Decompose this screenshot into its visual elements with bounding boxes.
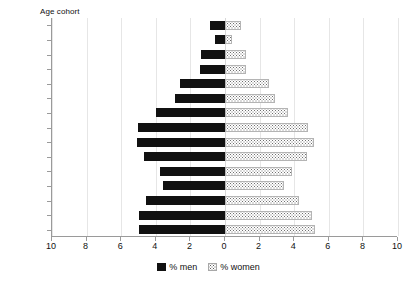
chart-legend: % men % women	[0, 262, 417, 272]
x-tick-label: 6	[118, 241, 123, 251]
bar-women-15	[225, 181, 284, 190]
legend-label-men: % men	[169, 262, 197, 272]
bar-men-65	[215, 35, 225, 44]
bar-women-20	[225, 167, 292, 176]
x-tick-mark	[51, 237, 52, 241]
gridline	[52, 18, 53, 236]
bar-men-10	[146, 196, 225, 205]
legend-swatch-women-icon	[208, 263, 217, 271]
bar-men-35	[138, 123, 225, 132]
chart-title: Age cohort	[40, 7, 80, 16]
legend-item-men[interactable]: % men	[157, 262, 197, 272]
bar-women-70	[225, 21, 241, 30]
bar-men-15	[163, 181, 225, 190]
legend-item-women[interactable]: % women	[208, 262, 260, 272]
bar-men-55	[200, 65, 225, 74]
x-tick-label: 8	[360, 241, 365, 251]
x-tick-mark	[328, 237, 329, 241]
gridline	[87, 18, 88, 236]
x-tick-label: 10	[392, 241, 402, 251]
population-pyramid-chart: Age cohort 7065605550454035302520151050 …	[0, 0, 417, 286]
bar-women-10	[225, 196, 299, 205]
bar-women-35	[225, 123, 308, 132]
x-tick-label: 0	[221, 241, 226, 251]
bar-women-30	[225, 138, 314, 147]
bar-women-50	[225, 79, 269, 88]
bar-women-55	[225, 65, 246, 74]
x-tick-mark	[86, 237, 87, 241]
bar-men-0	[139, 225, 225, 234]
bar-women-25	[225, 152, 307, 161]
bar-women-60	[225, 50, 246, 59]
gridline	[329, 18, 330, 236]
x-tick-mark	[397, 237, 398, 241]
bar-men-40	[156, 108, 225, 117]
plot-area	[51, 18, 397, 237]
bar-women-5	[225, 211, 312, 220]
x-tick-mark	[259, 237, 260, 241]
bar-men-50	[180, 79, 225, 88]
x-tick-mark	[224, 237, 225, 241]
x-tick-label: 4	[291, 241, 296, 251]
bar-women-65	[225, 35, 232, 44]
bar-men-70	[210, 21, 225, 30]
x-tick-mark	[362, 237, 363, 241]
bar-men-5	[139, 211, 225, 220]
bar-men-20	[160, 167, 225, 176]
x-tick-mark	[155, 237, 156, 241]
bar-men-45	[175, 94, 225, 103]
x-tick-mark	[120, 237, 121, 241]
bar-men-30	[137, 138, 225, 147]
legend-label-women: % women	[220, 262, 260, 272]
gridline	[398, 18, 399, 236]
x-tick-label: 10	[46, 241, 56, 251]
x-tick-label: 8	[83, 241, 88, 251]
x-tick-label: 2	[256, 241, 261, 251]
gridline	[121, 18, 122, 236]
x-tick-label: 4	[152, 241, 157, 251]
x-tick-mark	[189, 237, 190, 241]
bar-women-45	[225, 94, 275, 103]
bar-men-25	[144, 152, 225, 161]
bar-women-40	[225, 108, 288, 117]
x-tick-mark	[293, 237, 294, 241]
x-tick-label: 2	[187, 241, 192, 251]
legend-swatch-men-icon	[157, 263, 166, 271]
x-tick-label: 6	[325, 241, 330, 251]
bar-men-60	[201, 50, 225, 59]
bar-women-0	[225, 225, 315, 234]
gridline	[363, 18, 364, 236]
